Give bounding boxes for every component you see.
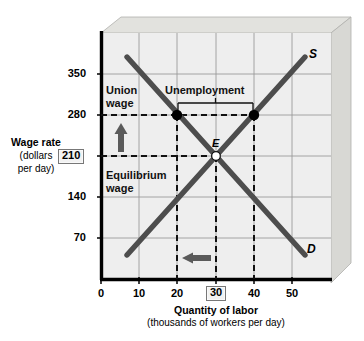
union-wage-label-line1: Union xyxy=(106,85,137,97)
y-tick-label-350: 350 xyxy=(56,68,86,80)
x-axis-subtitle: (thousands of workers per day) xyxy=(106,318,326,329)
y-tick-label-70: 70 xyxy=(56,232,86,244)
supply-curve-label: S xyxy=(309,48,317,61)
union-wage-label-line2: wage xyxy=(106,98,134,110)
y-tick-label-280: 280 xyxy=(56,109,86,121)
x-tick-label-40: 40 xyxy=(244,288,264,300)
equilibrium-point-marker xyxy=(212,152,221,161)
equilibrium-point-label: E xyxy=(212,138,219,150)
x-tick-label-30-highlighted: 30 xyxy=(206,286,226,301)
wage-floor-chart-figure: 70 140 210 280 350 0 10 20 30 40 50 Wage… xyxy=(0,0,364,341)
y-axis-subtitle-line2: per day) xyxy=(4,164,68,175)
x-tick-label-50: 50 xyxy=(282,288,302,300)
x-tick-label-10: 10 xyxy=(129,288,149,300)
y-tick-label-140: 140 xyxy=(56,191,86,203)
y-axis-title: Wage rate xyxy=(4,137,68,148)
bevel-right-face xyxy=(331,17,351,283)
y-axis-subtitle-line1: (dollars xyxy=(4,151,68,162)
equilibrium-wage-label-line2: wage xyxy=(106,183,134,195)
equilibrium-wage-label-line1: Equilibrium xyxy=(106,170,167,182)
demand-curve-label: D xyxy=(307,243,316,256)
x-axis-title: Quantity of labor xyxy=(116,305,316,316)
unemployment-label: Unemployment xyxy=(165,85,244,97)
bevel-top-face xyxy=(101,17,351,33)
x-tick-label-20: 20 xyxy=(167,288,187,300)
x-tick-label-0: 0 xyxy=(91,288,111,300)
quantity-supplied-point-marker xyxy=(249,110,259,120)
quantity-demanded-point-marker xyxy=(172,110,182,120)
